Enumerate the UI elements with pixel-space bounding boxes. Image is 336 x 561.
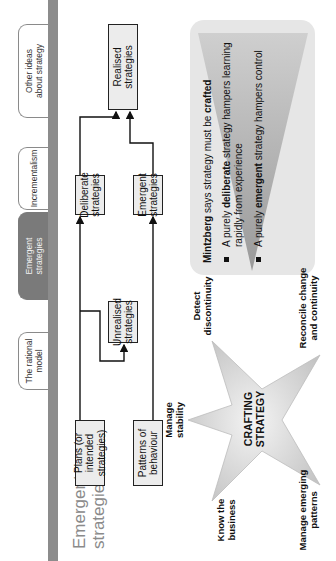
tab-label: Incrementalism	[29, 150, 39, 208]
box-patterns: Patterns ofbehaviour	[133, 420, 163, 486]
callout-bullet: A purely emergent strategy hampers contr…	[253, 30, 265, 263]
box-text: behaviour	[148, 429, 160, 477]
star-point-manage-emerging: Manage emerging patterns	[298, 465, 319, 555]
text: says strategy must be	[202, 113, 213, 216]
text: Manage emerging	[298, 465, 309, 555]
bullet-icon	[224, 257, 229, 262]
box-text: strategies	[90, 172, 102, 218]
text: and continuity	[309, 263, 320, 353]
tab-label: Other ideas	[24, 44, 34, 98]
callout-bullet: A purely deliberate strategy hampers lea…	[221, 30, 245, 263]
text: Manage	[164, 395, 175, 445]
text: Reconcile change	[298, 263, 309, 353]
star-center-label: CRAFTING STRATEGY	[242, 383, 266, 455]
text: Know the	[216, 495, 227, 545]
box-unrealised: Unrealisedstrategies	[108, 301, 138, 343]
box-emergent: Emergentstrategies	[133, 175, 163, 215]
text: STRATEGY	[254, 383, 266, 455]
tab-incrementalism[interactable]: Incrementalism	[18, 147, 48, 210]
box-text: Emergent	[137, 173, 149, 216]
tab-other-ideas[interactable]: Other ideasabout strategy	[18, 24, 48, 118]
bold-text: Mintzberg	[202, 216, 213, 263]
mintzberg-callout: Mintzberg says strategy must be crafted …	[190, 20, 315, 275]
text: discontinuity	[203, 271, 214, 341]
star-point-reconcile: Reconcile change and continuity	[298, 263, 319, 353]
box-plans: Plans (or intendedstrategies)	[75, 420, 105, 486]
text: business	[227, 495, 238, 545]
tab-label: Emergent	[24, 238, 34, 275]
star-point-manage-stability: Manage stability	[164, 395, 185, 445]
tab-label: The rational	[24, 339, 34, 384]
bold-text: emergent	[253, 163, 264, 208]
text: Detect	[192, 271, 203, 341]
box-text: strategies)	[96, 421, 108, 485]
tab-rational-model[interactable]: The rationalmodel	[18, 332, 48, 390]
crafting-strategy-star: CRAFTING STRATEGY Manage stability Detec…	[170, 281, 336, 541]
callout-intro: Mintzberg says strategy must be crafted	[202, 30, 214, 263]
box-deliberate: Deliberatestrategies	[75, 175, 105, 215]
box-text: Patterns of	[137, 429, 149, 477]
box-text: Unrealised	[112, 298, 124, 346]
tab-emergent-strategies[interactable]: Emergentstrategies	[18, 212, 49, 300]
tab-label: about strategy	[34, 44, 44, 98]
text: CRAFTING	[242, 383, 254, 455]
text: A purely	[253, 208, 264, 247]
box-text: Realised	[112, 45, 124, 88]
bullet-icon	[256, 257, 261, 262]
text: patterns	[309, 465, 320, 555]
text: stability	[175, 395, 186, 445]
box-text: strategies	[123, 45, 135, 88]
tab-label: model	[34, 339, 44, 384]
box-text: Plans (or intended	[73, 421, 96, 485]
tab-label: strategies	[34, 238, 44, 275]
tab-underline-bar	[48, 0, 58, 561]
slide: The rationalmodel Emergentstrategies Inc…	[0, 0, 336, 561]
star-point-know-business: Know the business	[216, 495, 237, 545]
bold-text: crafted	[202, 80, 213, 113]
bold-text: deliberate	[221, 161, 232, 208]
box-text: strategies	[148, 173, 160, 216]
text: strategy hampers control	[253, 50, 264, 163]
box-text: strategies	[123, 298, 135, 346]
box-realised: Realisedstrategies	[108, 24, 138, 110]
star-point-detect-discontinuity: Detect discontinuity	[192, 271, 213, 341]
box-text: Deliberate	[79, 172, 91, 218]
text: A purely	[221, 208, 232, 247]
